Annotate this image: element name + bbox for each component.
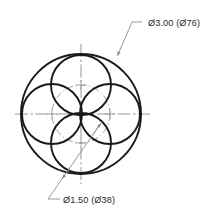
drawing-background bbox=[0, 0, 209, 217]
outer-diameter-text: Ø3.00 (Ø76) bbox=[148, 18, 200, 28]
circle-pattern-drawing: Ø3.00 (Ø76) Ø1.50 (Ø38) bbox=[0, 0, 209, 217]
technical-drawing-canvas: Ø3.00 (Ø76) Ø1.50 (Ø38) bbox=[0, 0, 209, 217]
hole-diameter-text: Ø1.50 (Ø38) bbox=[63, 195, 115, 205]
